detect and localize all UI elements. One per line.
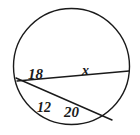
segment-label-12: 12 (37, 101, 51, 115)
segment-label-x: x (82, 64, 89, 78)
segment-label-20: 20 (64, 105, 79, 120)
segment-label-18: 18 (28, 67, 43, 82)
geometry-figure: 18 x 12 20 (0, 0, 140, 135)
